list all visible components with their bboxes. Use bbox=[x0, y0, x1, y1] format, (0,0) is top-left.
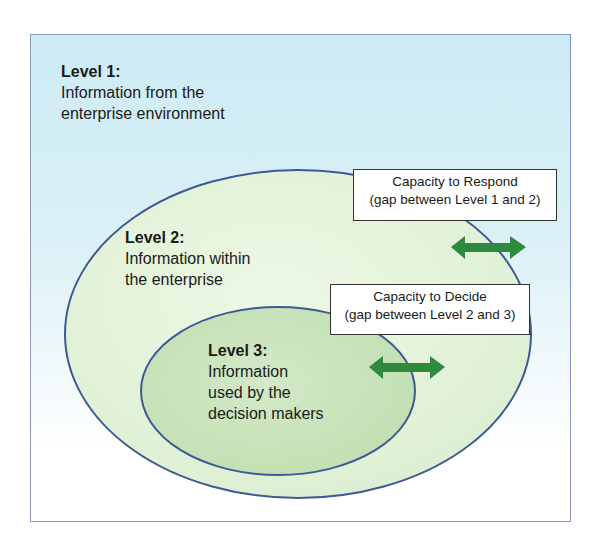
level1-title: Level 1: bbox=[61, 61, 225, 82]
level2-label: Level 2: Information within the enterpri… bbox=[125, 227, 250, 290]
level2-title: Level 2: bbox=[125, 227, 250, 248]
level2-line1: Information within bbox=[125, 248, 250, 269]
decide-line1: Capacity to Decide bbox=[331, 288, 529, 306]
level3-line1: Information bbox=[208, 361, 324, 382]
respond-line1: Capacity to Respond bbox=[354, 173, 556, 191]
capacity-to-respond-box: Capacity to Respond (gap between Level 1… bbox=[353, 169, 557, 221]
level2-line2: the enterprise bbox=[125, 269, 250, 290]
level3-line2: used by the bbox=[208, 382, 324, 403]
level3-label: Level 3: Information used by the decisio… bbox=[208, 340, 324, 424]
level1-label: Level 1: Information from the enterprise… bbox=[61, 61, 225, 124]
level1-line2: enterprise environment bbox=[61, 103, 225, 124]
capacity-to-decide-box: Capacity to Decide (gap between Level 2 … bbox=[330, 284, 530, 335]
level3-title: Level 3: bbox=[208, 340, 324, 361]
level1-line1: Information from the bbox=[61, 82, 225, 103]
respond-line2: (gap between Level 1 and 2) bbox=[354, 191, 556, 209]
decide-line2: (gap between Level 2 and 3) bbox=[331, 306, 529, 324]
level3-line3: decision makers bbox=[208, 403, 324, 424]
